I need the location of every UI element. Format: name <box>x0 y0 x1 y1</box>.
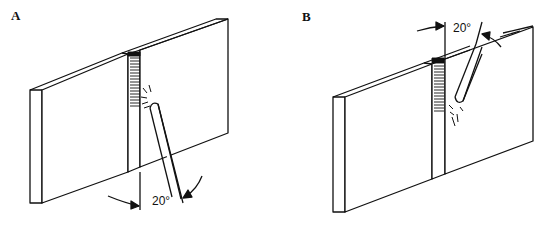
panel-b-drawing <box>333 22 533 212</box>
panel-a-left-plate-face <box>42 54 128 203</box>
panel-a-root-gap <box>128 50 140 172</box>
panel-b-left-plate-edge <box>333 97 345 212</box>
panel-a-drawing <box>30 19 228 210</box>
panel-b-left-plate-face <box>345 64 432 212</box>
panel-b-root-gap <box>432 59 445 179</box>
weld-diagram <box>0 0 546 225</box>
panel-a-left-plate-edge <box>30 90 42 203</box>
